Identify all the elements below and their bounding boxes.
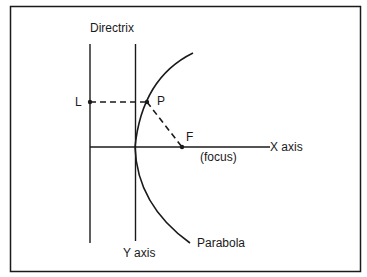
directrix-label: Directrix (90, 21, 134, 35)
parabola-diagram: Directrix L P F (focus) X axis Y axis Pa… (0, 0, 367, 277)
dashed-segment-pf (147, 102, 182, 147)
point-f-dot (180, 145, 184, 149)
point-p-dot (145, 100, 149, 104)
parabola-curve (135, 53, 193, 243)
parabola-label: Parabola (197, 236, 245, 250)
point-l-label: L (75, 95, 82, 109)
point-f-label: F (186, 130, 193, 144)
point-l-dot (88, 100, 92, 104)
y-axis-label: Y axis (123, 246, 155, 260)
focus-label: (focus) (200, 150, 237, 164)
point-p-label: P (157, 94, 165, 108)
x-axis-label: X axis (270, 140, 303, 154)
